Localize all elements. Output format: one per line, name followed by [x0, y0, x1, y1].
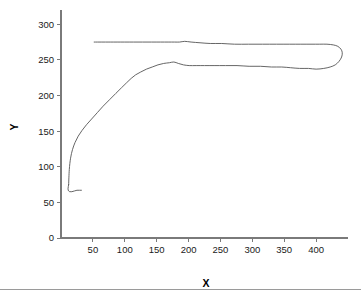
y-axis-tick-labels: 050100150200250300 — [38, 19, 54, 244]
x-tick-label: 50 — [88, 244, 99, 255]
y-axis-ticks — [57, 24, 61, 238]
x-tick-label: 200 — [181, 244, 197, 255]
y-tick-label: 200 — [38, 90, 54, 101]
y-tick-label: 150 — [38, 126, 54, 137]
y-tick-label: 300 — [38, 19, 54, 30]
x-tick-label: 250 — [213, 244, 229, 255]
x-tick-label: 350 — [276, 244, 292, 255]
x-tick-label: 100 — [117, 244, 133, 255]
x-axis-ticks — [93, 238, 316, 242]
x-axis-tick-labels: 50100150200250300350400 — [88, 244, 324, 255]
data-series-loop — [69, 41, 343, 184]
y-tick-label: 50 — [43, 197, 54, 208]
xy-line-chart: 050100150200250300 501001502002503003504… — [0, 0, 361, 295]
x-tick-label: 150 — [149, 244, 165, 255]
y-tick-label: 100 — [38, 161, 54, 172]
chart-figure: 050100150200250300 501001502002503003504… — [0, 0, 361, 295]
y-axis-title: Y — [8, 123, 20, 130]
data-series-loop-hook — [68, 185, 81, 192]
x-tick-label: 400 — [308, 244, 324, 255]
x-tick-label: 300 — [244, 244, 260, 255]
x-axis-title: X — [202, 277, 209, 289]
y-tick-label: 250 — [38, 54, 54, 65]
y-tick-label: 0 — [49, 232, 54, 243]
